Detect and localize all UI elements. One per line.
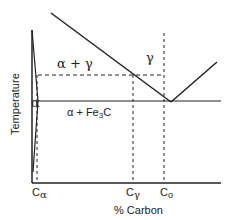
region-gamma: γ [146,50,154,65]
y-axis-label: Temperature [9,73,21,135]
region-alpha-gamma: α + γ [57,56,93,71]
phase-diagram: α + γ γ α α + Fe3C Temperature Cα Cγ Co … [0,0,241,220]
tick-c-alpha: Cα [32,186,47,200]
alpha-boundary-upper [32,30,38,101]
region-alpha: α [31,95,40,110]
tick-c-o: Co [160,186,173,200]
acm-line [171,62,217,102]
tick-c-gamma: Cγ [126,186,140,200]
x-axis-label: % Carbon [114,204,163,216]
region-alpha-fe3c: α + Fe3C [67,106,111,120]
